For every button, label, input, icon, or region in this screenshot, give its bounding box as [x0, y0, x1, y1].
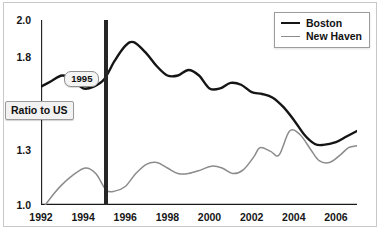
chart-figure: 1995 1.01.31.82.0 1992199419961998200020… — [0, 0, 382, 231]
x-tick-label: 2002 — [232, 212, 272, 223]
legend-item-boston: Boston — [281, 17, 362, 29]
legend-item-new-haven: New Haven — [281, 30, 362, 42]
y-axis-title: Ratio to US — [5, 101, 74, 120]
y-tick-label: 2.0 — [1, 15, 31, 25]
x-tick-label: 1992 — [21, 212, 61, 223]
legend-label-boston: Boston — [306, 17, 342, 29]
event-marker-label: 1995 — [64, 71, 99, 87]
x-tick-label: 1998 — [147, 212, 187, 223]
series-line-boston — [41, 42, 357, 145]
legend-swatch-new-haven — [281, 36, 300, 37]
x-tick-label: 2006 — [316, 212, 356, 223]
legend-label-new-haven: New Haven — [306, 30, 362, 42]
event-marker-bar — [104, 20, 108, 205]
legend-swatch-boston — [281, 22, 300, 24]
y-tick-label: 1.3 — [1, 145, 31, 155]
x-tick-label: 1994 — [63, 212, 103, 223]
x-tick-label: 1996 — [105, 212, 145, 223]
x-tick-label: 2004 — [274, 212, 314, 223]
y-tick-label: 1.0 — [1, 200, 31, 210]
chart-legend: Boston New Haven — [274, 12, 370, 48]
y-tick-label: 1.8 — [1, 52, 31, 62]
x-tick-label: 2000 — [190, 212, 230, 223]
